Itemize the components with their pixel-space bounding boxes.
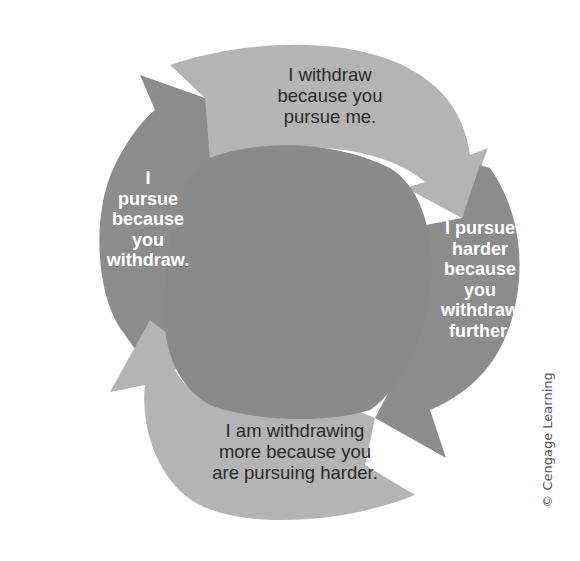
label-line: because you bbox=[245, 85, 415, 106]
label-line: you bbox=[425, 280, 535, 301]
label-line: harder bbox=[425, 239, 535, 260]
label-line: pursue me. bbox=[245, 106, 415, 127]
label-line: I am withdrawing bbox=[195, 420, 395, 441]
cycle-diagram: I withdraw because you pursue me. I purs… bbox=[0, 0, 580, 561]
label-line: because bbox=[425, 259, 535, 280]
node-top-label: I withdraw because you pursue me. bbox=[245, 64, 415, 127]
label-line: I pursue bbox=[425, 218, 535, 239]
label-line: I withdraw bbox=[245, 64, 415, 85]
node-right-label: I pursue harder because you withdraw fur… bbox=[425, 218, 535, 341]
label-line: further. bbox=[425, 321, 535, 342]
label-line: pursue bbox=[98, 189, 198, 210]
label-line: I bbox=[98, 168, 198, 189]
label-line: because bbox=[98, 209, 198, 230]
label-line: withdraw. bbox=[98, 250, 198, 271]
label-line: you bbox=[98, 230, 198, 251]
node-left-label: I pursue because you withdraw. bbox=[98, 168, 198, 271]
copyright-credit: © Cengage Learning bbox=[540, 372, 555, 507]
center-blob bbox=[164, 145, 431, 419]
label-line: more because you bbox=[195, 441, 395, 462]
node-bottom-label: I am withdrawing more because you are pu… bbox=[195, 420, 395, 483]
label-line: are pursuing harder. bbox=[195, 462, 395, 483]
label-line: withdraw bbox=[425, 300, 535, 321]
